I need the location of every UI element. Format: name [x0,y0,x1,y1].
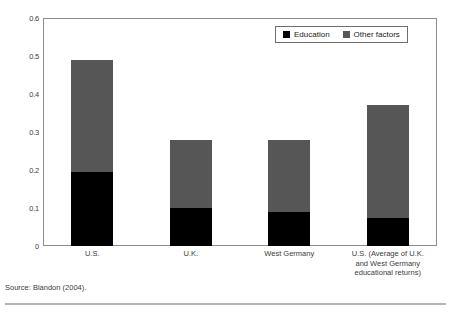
bars-layer [43,18,437,246]
y-axis-tick-label: 0.1 [0,204,39,213]
stacked-bar [268,140,310,246]
y-axis: 00.10.20.30.40.50.6 [0,18,39,246]
bar-group [170,18,212,246]
legend-item-education: Education [283,30,330,39]
x-axis-label-line: educational returns) [336,268,440,278]
chart-legend: Education Other factors [275,26,408,43]
bar-segment-education [268,212,310,246]
bar-segment-other-factors [170,140,212,208]
square-swatch-icon [283,31,290,38]
y-axis-tick-label: 0.2 [0,166,39,175]
stacked-bar [367,105,409,246]
source-note: Source: Blandon (2004). [5,283,86,292]
legend-label: Other factors [354,30,400,39]
x-axis-label-line: U.S. [40,249,144,259]
bar-segment-education [71,172,113,246]
y-axis-tick-label: 0 [0,242,39,251]
figure-container: 00.10.20.30.40.50.6 U.S.U.K.West Germany… [0,0,451,313]
stacked-bar [170,140,212,246]
y-axis-tick-label: 0.5 [0,52,39,61]
legend-item-other-factors: Other factors [343,30,400,39]
bar-segment-other-factors [71,60,113,172]
x-axis-tick-label: U.S. (Average of U.K.and West Germanyedu… [336,249,440,278]
bar-segment-other-factors [268,140,310,211]
x-axis-label-line: West Germany [237,249,341,259]
legend-label: Education [294,30,330,39]
y-axis-tick-label: 0.4 [0,90,39,99]
bar-group [367,18,409,246]
x-axis-label-line: U.K. [139,249,243,259]
bar-group [71,18,113,246]
bar-group [268,18,310,246]
x-axis-tick-label: U.S. [40,249,144,259]
y-axis-tick-label: 0.6 [0,14,39,23]
x-axis-label-line: U.S. (Average of U.K. [336,249,440,259]
stacked-bar [71,60,113,246]
x-axis-label-line: and West Germany [336,259,440,269]
chart-title [85,0,355,3]
y-axis-tick-label: 0.3 [0,128,39,137]
square-swatch-icon [343,31,350,38]
x-axis-tick-label: West Germany [237,249,341,259]
x-axis-tick-label: U.K. [139,249,243,259]
x-axis: U.S.U.K.West GermanyU.S. (Average of U.K… [43,249,437,297]
bar-segment-other-factors [367,105,409,217]
bottom-divider [5,303,446,305]
bar-segment-education [367,218,409,247]
bar-segment-education [170,208,212,246]
